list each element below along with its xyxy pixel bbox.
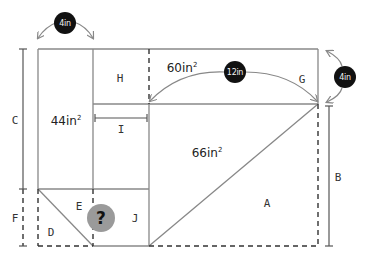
span-arc-left <box>150 72 225 101</box>
label-i: I <box>118 124 125 135</box>
top-left-arc-right <box>74 22 93 38</box>
label-g: G <box>299 74 306 85</box>
diagonal-triangle <box>149 104 318 246</box>
label-a: A <box>264 198 271 209</box>
span-arc-right <box>245 72 317 101</box>
label-d: D <box>48 227 55 238</box>
label-b: B <box>335 172 342 183</box>
label-j: J <box>132 213 139 224</box>
label-h: H <box>117 73 124 84</box>
diagonal-de <box>38 189 93 246</box>
area-diagram <box>0 0 368 261</box>
label-f: F <box>12 213 19 224</box>
unknown-question-mark: ? <box>87 204 115 232</box>
label-c: C <box>12 115 19 126</box>
badge-top-left-width: 4in <box>54 12 76 34</box>
badge-top-span: 12in <box>224 61 246 83</box>
badge-right-height: 4in <box>334 66 356 88</box>
right-arc-top <box>327 51 342 66</box>
area-triangle: 66in2 <box>192 147 223 159</box>
right-arc-bottom <box>327 88 342 102</box>
label-e: E <box>76 201 83 212</box>
area-left-rect: 44in2 <box>51 115 82 127</box>
area-top-right-rect: 60in2 <box>167 62 198 74</box>
